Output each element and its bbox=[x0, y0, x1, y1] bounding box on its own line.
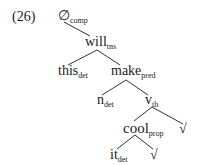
node-make-pred: makepred bbox=[111, 64, 156, 78]
node-head: ∅ bbox=[58, 8, 70, 23]
edge-v-cool bbox=[134, 107, 152, 121]
node-root-comp: ∅comp bbox=[58, 9, 88, 23]
node-subscript: tns bbox=[107, 42, 116, 51]
tree-edges bbox=[0, 0, 197, 165]
node-head: will bbox=[85, 34, 107, 49]
node-subscript: det bbox=[104, 100, 114, 109]
node-subscript: th bbox=[152, 100, 158, 109]
node-head: it bbox=[110, 147, 118, 162]
root-symbol-icon: √ bbox=[179, 122, 187, 136]
node-head: n bbox=[97, 92, 104, 107]
root-symbol-icon: √ bbox=[150, 148, 158, 162]
node-subscript: prop bbox=[149, 129, 164, 138]
example-number: (26) bbox=[12, 10, 35, 24]
node-cool-prop: coolprop bbox=[123, 121, 164, 135]
node-it-det: itdet bbox=[110, 148, 128, 162]
node-head: v bbox=[145, 92, 152, 107]
node-subscript: comp bbox=[70, 16, 88, 25]
edge-cool-it bbox=[117, 135, 135, 149]
node-head: make bbox=[111, 63, 141, 78]
node-subscript: det bbox=[118, 155, 128, 164]
node-subscript: det bbox=[78, 71, 88, 80]
node-subscript: pred bbox=[141, 71, 155, 80]
node-n-det: ndet bbox=[97, 93, 114, 107]
node-this-det: thisdet bbox=[58, 64, 88, 78]
node-head: this bbox=[58, 63, 78, 78]
node-head: cool bbox=[123, 120, 149, 136]
node-will-tns: willtns bbox=[85, 35, 116, 49]
node-v-th: vth bbox=[145, 93, 158, 107]
